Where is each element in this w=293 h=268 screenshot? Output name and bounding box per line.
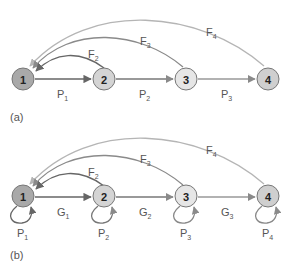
label-p2-a: P2	[139, 88, 150, 102]
panel-label-a: (a)	[10, 111, 23, 123]
node-2-b: 2	[93, 185, 115, 207]
node-1-b: 1	[12, 185, 34, 207]
edge-f3-a	[33, 37, 183, 68]
svg-text:1: 1	[20, 191, 26, 203]
svg-text:4: 4	[265, 74, 272, 86]
panel-label-b: (b)	[10, 249, 23, 261]
node-1-a: 1	[12, 68, 34, 90]
label-f4-a: F4	[206, 26, 217, 40]
self-loop-4	[256, 206, 277, 223]
label-p1-a: P1	[57, 88, 68, 102]
label-p2-b: P2	[98, 227, 109, 241]
label-f4-b: F4	[206, 144, 217, 158]
panel-b: 1 2 3 4 G1 G2 G3 F2 F3 F4 P1 P2 P3 P4 (b…	[10, 138, 279, 261]
label-g2-b: G2	[139, 206, 152, 220]
node-4-a: 4	[257, 68, 279, 90]
self-loop-3	[174, 206, 195, 223]
node-3-b: 3	[175, 185, 197, 207]
state-diagram: 1 2 3 4 P1 P2 P3 F2 F3 F4 (a) 1 2 3 4 G1…	[0, 0, 293, 268]
svg-text:3: 3	[183, 74, 189, 86]
label-p3-b: P3	[180, 227, 191, 241]
label-g3-b: G3	[221, 206, 234, 220]
self-loop-2	[92, 206, 113, 223]
svg-text:2: 2	[101, 74, 107, 86]
self-loop-1	[11, 206, 32, 223]
edge-f3-b	[33, 155, 183, 186]
node-3-a: 3	[175, 68, 197, 90]
node-4-b: 4	[257, 185, 279, 207]
label-f2-a: F2	[88, 48, 99, 62]
label-f3-a: F3	[140, 35, 151, 49]
svg-text:4: 4	[265, 191, 272, 203]
svg-text:2: 2	[101, 191, 107, 203]
node-2-a: 2	[93, 68, 115, 90]
label-p1-b: P1	[17, 227, 28, 241]
label-p3-a: P3	[221, 88, 232, 102]
label-f3-b: F3	[140, 153, 151, 167]
label-p4-b: P4	[262, 227, 273, 241]
label-f2-b: F2	[88, 166, 99, 180]
svg-text:3: 3	[183, 191, 189, 203]
label-g1-b: G1	[57, 206, 70, 220]
svg-text:1: 1	[20, 74, 26, 86]
panel-a: 1 2 3 4 P1 P2 P3 F2 F3 F4 (a)	[10, 20, 279, 123]
